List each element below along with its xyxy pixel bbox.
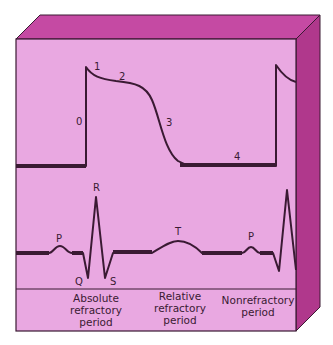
ecg-t-label: T xyxy=(174,226,182,237)
svg-text:period: period xyxy=(79,316,112,328)
box-side-face xyxy=(296,15,320,331)
ecg-s-label: S xyxy=(110,276,116,287)
svg-text:Absolute: Absolute xyxy=(73,292,119,304)
svg-text:period: period xyxy=(241,306,274,318)
svg-text:refractory: refractory xyxy=(70,304,122,316)
refractory-period-diagram: 0 1 2 3 4 P Q R S T P Absolute refractor… xyxy=(0,0,333,345)
svg-text:Relative: Relative xyxy=(159,290,201,302)
phase-4-label: 4 xyxy=(234,151,240,162)
box-front-face xyxy=(16,39,296,331)
svg-text:refractory: refractory xyxy=(154,302,206,314)
ecg-q-label: Q xyxy=(75,276,83,287)
ecg-r-label: R xyxy=(93,182,100,193)
svg-text:Nonrefractory: Nonrefractory xyxy=(222,294,295,306)
phase-0-label: 0 xyxy=(76,116,82,127)
ecg-p-label-1: P xyxy=(56,233,62,244)
ecg-p-label-2: P xyxy=(248,231,254,242)
svg-text:period: period xyxy=(163,314,196,326)
phase-2-label: 2 xyxy=(119,71,125,82)
box-top-face xyxy=(16,15,320,39)
phase-3-label: 3 xyxy=(166,117,172,128)
phase-1-label: 1 xyxy=(94,61,100,72)
